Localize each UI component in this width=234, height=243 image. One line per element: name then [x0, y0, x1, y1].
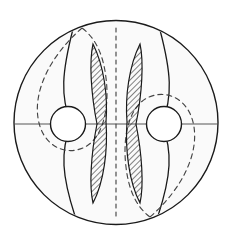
right-hole	[147, 107, 182, 142]
left-hole	[51, 107, 86, 142]
outer-disk-fill	[14, 21, 218, 225]
topology-diagram	[0, 0, 234, 243]
figure-container	[0, 0, 234, 243]
